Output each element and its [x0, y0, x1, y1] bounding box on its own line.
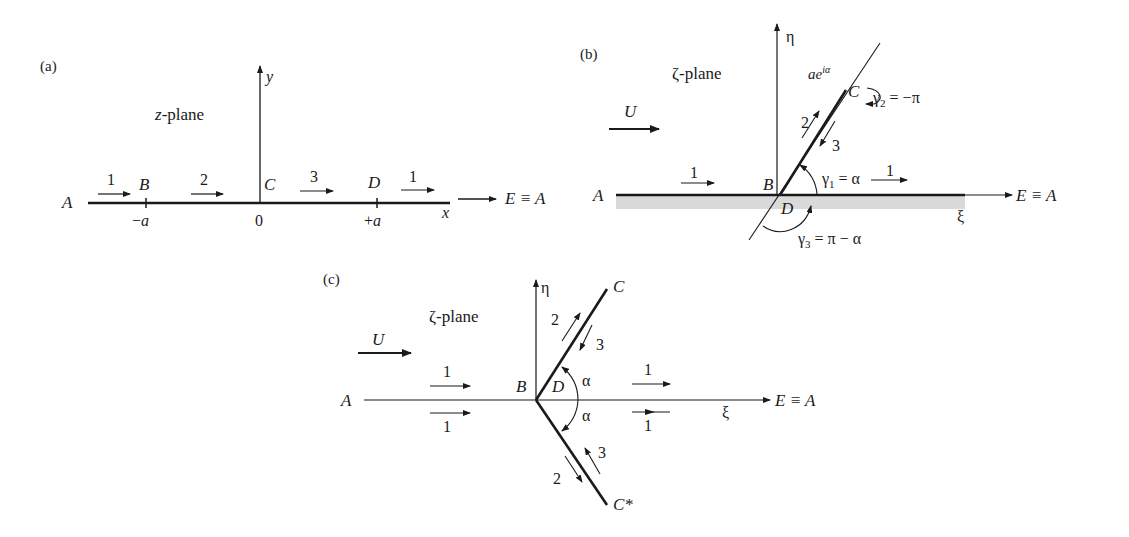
arrowhead-icon	[645, 409, 655, 415]
segment-2: 2	[200, 171, 208, 188]
angle-arc-lower	[562, 400, 578, 431]
segment-3-upper: 3	[596, 336, 604, 353]
tick-label-plus-a: +a	[364, 212, 381, 229]
xi-axis-label: ξ	[957, 208, 964, 225]
gamma3-label: γ3 = π − α	[797, 230, 862, 250]
angle-alpha-lower: α	[582, 407, 591, 424]
segment-1-upper-right: 1	[644, 361, 652, 378]
point-b: B	[139, 175, 150, 194]
point-e: E ≡ A	[504, 189, 546, 208]
segment-1-right: 1	[886, 162, 894, 179]
point-c-star: C*	[613, 495, 633, 514]
y-axis-label: y	[264, 68, 274, 86]
point-a: A	[592, 186, 604, 205]
zeta-plane-label: ζ-plane	[429, 307, 479, 326]
segment-1-lower-right: 1	[644, 417, 652, 434]
panel-c-label: (c)	[323, 271, 340, 288]
segment-1-lower-left: 1	[443, 418, 451, 435]
flow-label-u: U	[372, 330, 386, 349]
point-b: B	[763, 175, 774, 194]
panel-a: (a) y z-plane E ≡ A A x −a 0 +a B C D 1 …	[40, 58, 546, 229]
point-d: D	[780, 199, 794, 218]
segment-1-left: 1	[107, 171, 115, 188]
conformal-mapping-diagram: (a) y z-plane E ≡ A A x −a 0 +a B C D 1 …	[0, 0, 1129, 537]
tick-label-minus-a: −a	[132, 212, 149, 229]
eta-axis-label: η	[786, 28, 794, 46]
gamma1-label: γ1 = α	[821, 170, 861, 190]
point-a: A	[61, 193, 73, 212]
panel-b-label: (b)	[580, 46, 598, 63]
point-e: E ≡ A	[774, 391, 816, 410]
point-d: D	[367, 173, 381, 192]
gamma2-label: γ2 = −π	[872, 89, 920, 109]
tick-label-zero: 0	[255, 212, 263, 229]
xi-axis-label: ξ	[722, 404, 729, 421]
point-b: B	[516, 377, 527, 396]
panel-a-label: (a)	[40, 58, 57, 75]
plate-lower	[536, 400, 607, 505]
tip-label: aeiα	[808, 64, 831, 82]
segment-3: 3	[310, 168, 318, 185]
point-d: D	[551, 377, 565, 396]
panel-c: (c) ζ-plane η A E ≡ A ξ C C* B D U 1 1 1…	[323, 271, 816, 514]
flow-label-u: U	[624, 102, 638, 121]
point-c: C	[848, 82, 860, 101]
eta-axis-label: η	[541, 279, 549, 297]
segment-1-left: 1	[690, 164, 698, 181]
zeta-plane-label: ζ-plane	[672, 64, 722, 83]
segment-2-upper: 2	[551, 311, 559, 328]
angle-arc-gamma1	[800, 165, 817, 195]
angle-arc-upper	[562, 367, 578, 400]
panel-b: (b) ζ-plane η E ≡ A A ξ B D C aeiα U 1 1…	[580, 24, 1057, 250]
segment-3-lower: 3	[598, 444, 606, 461]
point-c: C	[264, 175, 276, 194]
segment-3: 3	[832, 137, 840, 154]
angle-alpha-upper: α	[582, 372, 591, 389]
point-e: E ≡ A	[1015, 186, 1057, 205]
x-axis-label: x	[441, 204, 449, 221]
z-plane-label: z-plane	[154, 105, 204, 124]
segment-1-upper-left: 1	[443, 363, 451, 380]
point-a: A	[340, 391, 352, 410]
arrow-icon	[565, 456, 582, 482]
segment-1-right: 1	[409, 168, 417, 185]
point-c: C	[613, 277, 625, 296]
segment-2-lower: 2	[553, 470, 561, 487]
